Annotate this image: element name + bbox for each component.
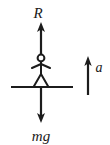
stick-figure-arm-left	[32, 64, 41, 68]
stick-figure-leg-left	[34, 74, 42, 87]
normal-force-vector	[37, 22, 45, 55]
stick-figure-leg-right	[41, 74, 49, 87]
stick-figure-arm-right	[41, 64, 50, 68]
free-body-diagram: R mg a	[0, 0, 110, 145]
acceleration-vector	[84, 56, 91, 95]
weight-label: mg	[32, 128, 51, 144]
diagram-canvas: R mg a	[0, 0, 110, 145]
weight-vector	[37, 88, 45, 123]
normal-force-label: R	[32, 5, 42, 21]
stick-figure	[32, 55, 50, 87]
acceleration-label: a	[96, 60, 103, 75]
stick-figure-head	[38, 55, 45, 62]
